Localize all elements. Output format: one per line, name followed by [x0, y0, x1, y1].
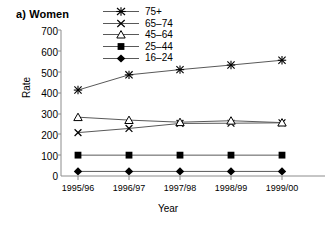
legend-item-65-74: 65–74	[103, 18, 173, 30]
legend-item-45-64: 45–64	[103, 29, 173, 41]
square-filled-marker	[177, 152, 184, 159]
asterisk-marker	[176, 65, 184, 73]
asterisk-marker-icon	[103, 6, 139, 17]
series-25-44	[75, 152, 286, 159]
legend-label: 75+	[145, 6, 162, 18]
diamond-filled-marker	[278, 167, 286, 175]
chart-figure: a) Women Rate Year 700 600 500 400 300 2…	[0, 0, 336, 226]
square-filled-marker	[75, 152, 82, 159]
square-filled-marker	[228, 152, 235, 159]
series-45-64	[74, 113, 286, 126]
legend-item-75plus: 75+	[103, 6, 173, 18]
diamond-filled-marker	[74, 167, 82, 175]
x-marker-icon	[103, 18, 139, 29]
asterisk-marker	[227, 61, 235, 69]
triangle-open-marker-icon	[103, 29, 139, 40]
asterisk-marker	[74, 86, 82, 94]
square-filled-marker	[279, 152, 286, 159]
square-filled-marker-icon	[103, 41, 139, 52]
diamond-filled-marker	[227, 167, 235, 175]
asterisk-marker	[125, 71, 133, 79]
asterisk-marker	[278, 56, 286, 64]
legend-label: 16–24	[145, 52, 173, 64]
diamond-filled-marker	[125, 167, 133, 175]
legend-label: 25–44	[145, 41, 173, 53]
series-16-24	[74, 167, 286, 175]
legend-item-25-44: 25–44	[103, 41, 173, 53]
legend: 75+ 65–74 45–64	[103, 6, 173, 64]
data-series-layer	[74, 56, 286, 176]
diamond-filled-marker-icon	[103, 53, 139, 64]
legend-label: 45–64	[145, 29, 173, 41]
legend-label: 65–74	[145, 18, 173, 30]
legend-item-16-24: 16–24	[103, 52, 173, 64]
square-filled-marker	[126, 152, 133, 159]
diamond-filled-marker	[176, 167, 184, 175]
